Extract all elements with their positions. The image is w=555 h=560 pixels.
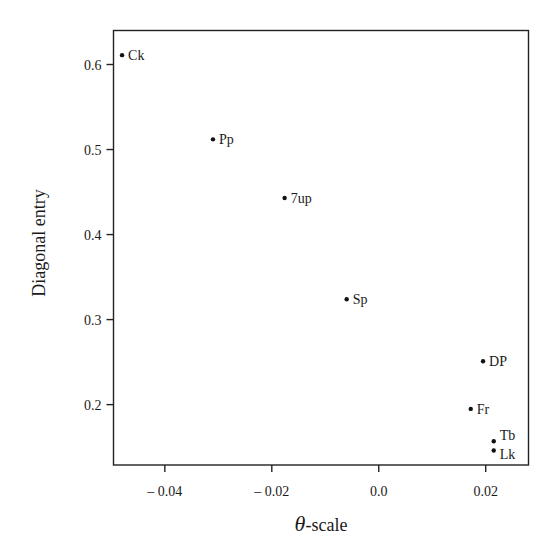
point-marker <box>492 439 496 443</box>
y-axis: 0.20.30.40.50.6 <box>84 58 114 413</box>
scatter-chart: – 0.04– 0.020.00.02 0.20.30.40.50.6 CkPp… <box>0 0 555 560</box>
x-tick-label: – 0.04 <box>146 484 182 499</box>
y-tick-label: 0.6 <box>84 58 102 73</box>
data-point-7up: 7up <box>282 191 311 206</box>
x-tick-label: – 0.02 <box>253 484 289 499</box>
data-point-fr: Fr <box>469 402 490 417</box>
point-marker <box>282 196 286 200</box>
point-label: Fr <box>477 402 490 417</box>
point-marker <box>481 359 485 363</box>
x-tick-label: 0.02 <box>473 484 498 499</box>
point-label: Tb <box>500 428 516 443</box>
data-point-sp: Sp <box>344 292 367 307</box>
y-tick-label: 0.4 <box>84 228 102 243</box>
point-marker <box>120 53 124 57</box>
point-label: Lk <box>500 447 516 462</box>
y-axis-label: Diagonal entry <box>29 189 49 296</box>
data-point-pp: Pp <box>211 132 234 147</box>
x-tick-label: 0.0 <box>370 484 388 499</box>
point-label: 7up <box>291 191 312 206</box>
point-label: Sp <box>353 292 368 307</box>
point-label: Pp <box>219 132 234 147</box>
point-marker <box>344 297 348 301</box>
y-tick-label: 0.5 <box>84 143 102 158</box>
plot-frame <box>114 31 529 466</box>
theta-symbol: θ <box>295 511 306 536</box>
point-label: DP <box>489 354 507 369</box>
data-point-lk: Lk <box>492 447 516 462</box>
data-point-tb: Tb <box>492 428 516 443</box>
data-point-dp: DP <box>481 354 507 369</box>
x-axis: – 0.04– 0.020.00.02 <box>146 465 498 499</box>
point-label: Ck <box>128 48 144 63</box>
x-axis-label: θ-scale <box>295 511 348 536</box>
point-marker <box>492 448 496 452</box>
data-point-ck: Ck <box>120 48 145 63</box>
data-points: CkPp7upSpDPFrTbLk <box>120 48 515 461</box>
x-axis-label-suffix: -scale <box>305 515 347 535</box>
point-marker <box>469 407 473 411</box>
y-tick-label: 0.3 <box>84 313 102 328</box>
point-marker <box>211 137 215 141</box>
y-tick-label: 0.2 <box>84 398 102 413</box>
